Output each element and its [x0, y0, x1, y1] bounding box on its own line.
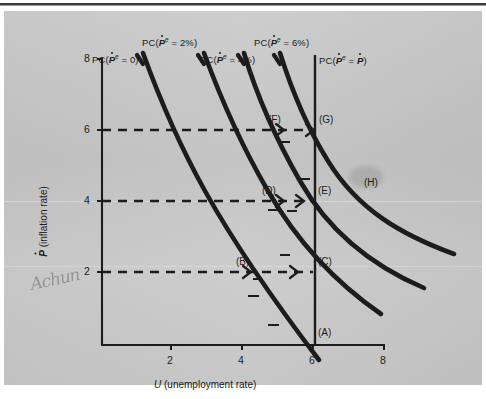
x-axis-title-text: (unemployment rate) [161, 379, 256, 390]
y-tick-label-8: 8 [84, 52, 90, 64]
x-tick-label-8: 8 [380, 354, 386, 366]
curve-label-pc-expected-2: PC(Pe = 2%) [142, 36, 197, 49]
pc4-prefix: PC( [200, 54, 217, 65]
pc0-value: = 0) [119, 54, 139, 65]
y-tick-label-2: 2 [84, 265, 90, 277]
point-label-h: (H) [364, 177, 378, 188]
phillips-curve-chart [4, 11, 482, 385]
pc0-symbol: P [109, 55, 115, 65]
point-label-e: (E) [318, 185, 331, 196]
point-label-c: (C) [318, 256, 332, 267]
dashed-guides [102, 130, 313, 272]
figure-root: 8 6 4 2 2 4 6 8 P (inflation rate) U (un… [0, 0, 486, 399]
pc6-symbol: P [271, 38, 277, 48]
pc6-prefix: PC( [254, 37, 271, 48]
y-tick-label-6: 6 [84, 123, 90, 135]
lrpc-symbol: P [336, 56, 342, 66]
lrpc-equals: = [346, 55, 357, 66]
scanned-figure-panel: 8 6 4 2 2 4 6 8 P (inflation rate) U (un… [4, 11, 482, 385]
y-axis-symbol: P [38, 250, 49, 257]
point-label-b: (B) [236, 256, 249, 267]
point-label-f: (F) [268, 114, 281, 125]
y-tick-label-4: 4 [84, 194, 90, 206]
pc4-value: = 4%) [227, 54, 255, 65]
curve-label-long-run: PC(Pe = P) [319, 54, 367, 67]
point-label-g: (G) [319, 114, 333, 125]
lrpc-prefix: PC( [319, 55, 336, 66]
curve-label-pc-expected-4: PC(Pe = 4%) [200, 53, 255, 66]
pc0-prefix: PC( [92, 54, 109, 65]
x-axis-title: U (unemployment rate) [154, 379, 256, 390]
curve-label-pc-expected-6: PC(Pe = 6%) [254, 36, 309, 49]
curve-pc-expected-0 [143, 53, 319, 360]
pc4-symbol: P [217, 55, 223, 65]
x-tick-label-2: 2 [167, 354, 173, 366]
pc2-prefix: PC( [142, 37, 159, 48]
curve-label-pc-expected-0: PC(Pe = 0) [92, 53, 139, 66]
curve-pc-expected-6 [280, 53, 454, 254]
pc2-value: = 2%) [169, 37, 197, 48]
lrpc-tail: ) [363, 55, 366, 66]
point-label-a: (A) [318, 327, 331, 338]
y-axis-title-text: (inflation rate) [38, 186, 49, 250]
page-top-rule [0, 3, 486, 5]
pc6-value: = 6%) [281, 37, 309, 48]
x-tick-label-6: 6 [309, 354, 315, 366]
x-tick-label-4: 4 [238, 354, 244, 366]
axis-lines [101, 58, 385, 345]
pc2-symbol: P [159, 38, 165, 48]
point-label-d: (D) [262, 185, 276, 196]
lrpc-symbol-2: P [357, 56, 363, 66]
